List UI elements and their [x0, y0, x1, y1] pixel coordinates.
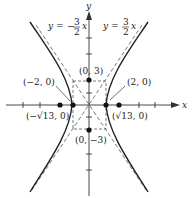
asymptote-label-positive: y = 3 2 x — [102, 17, 136, 37]
svg-text:3: 3 — [123, 17, 129, 27]
svg-text:y =: y = — [47, 21, 64, 31]
svg-text:2: 2 — [123, 27, 129, 37]
label-covertex-top: (0, 3) — [79, 66, 103, 76]
point-vertex-right — [103, 102, 108, 107]
point-focus-left — [57, 102, 62, 107]
x-axis-arrow-icon — [171, 102, 180, 108]
asymptote-label-negative: y = − 3 2 x — [47, 17, 87, 37]
label-vertex-left: (−2, 0) — [23, 77, 55, 87]
hyperbola-diagram: y x y = − 3 2 x y = 3 2 x (0, 3) (−2, 0)… — [0, 0, 194, 198]
label-covertex-bottom: (0, −3) — [75, 135, 107, 145]
point-vertex-left — [70, 102, 75, 107]
label-focus-left: (−√13, 0) — [26, 111, 69, 121]
svg-text:y =: y = — [102, 21, 119, 31]
axes — [6, 16, 174, 196]
point-focus-right — [116, 102, 121, 107]
point-covertex-top — [86, 77, 91, 82]
y-axis-label: y — [85, 1, 92, 11]
leader-vertex-right — [110, 86, 125, 100]
label-focus-right: (√13, 0) — [112, 111, 148, 121]
label-vertex-right: (2, 0) — [127, 77, 151, 87]
y-axis-arrow-icon — [86, 11, 92, 20]
x-axis-label: x — [182, 100, 187, 110]
point-covertex-bottom — [86, 127, 91, 132]
svg-text:x: x — [82, 21, 87, 31]
svg-text:x: x — [131, 21, 136, 31]
svg-text:3: 3 — [74, 17, 80, 27]
svg-text:2: 2 — [74, 27, 80, 37]
